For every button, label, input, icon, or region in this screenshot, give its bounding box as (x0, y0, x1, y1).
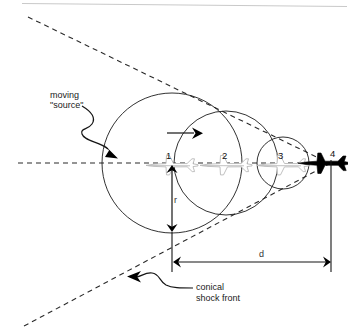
moving-source-label-line2: "source" (50, 100, 83, 110)
radius-label: r (174, 195, 177, 205)
moving-source-label-line1: moving (50, 90, 79, 100)
position-label-4: 4 (330, 148, 335, 159)
distance-label: d (259, 249, 264, 259)
moving-source-leader-icon (82, 106, 118, 159)
position-label-3: 3 (278, 150, 283, 161)
position-label-1: 1 (166, 150, 171, 161)
distance-dimension (173, 257, 331, 268)
lower-mach-line (24, 163, 331, 326)
shock-front-label-line1: conical (196, 282, 224, 292)
page-rule (22, 4, 347, 7)
shock-cone-diagram: moving "source" conical shock front r d … (0, 0, 348, 334)
shock-front-label-line2: shock front (196, 293, 241, 303)
position-label-2: 2 (222, 150, 227, 161)
velocity-arrow-icon (167, 128, 203, 140)
radius-dimension (167, 165, 178, 272)
diagram-canvas: moving "source" conical shock front r d … (0, 0, 348, 334)
shock-front-leader-icon (127, 271, 193, 288)
